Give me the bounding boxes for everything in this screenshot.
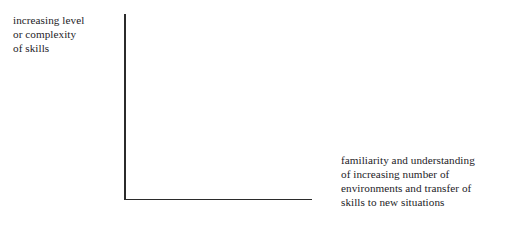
plot-area bbox=[126, 16, 311, 197]
diagram-canvas: increasing level or complexity of skills… bbox=[0, 0, 524, 229]
y-axis-label-line-1: increasing level bbox=[13, 13, 84, 27]
y-axis-label: increasing level or complexity of skills bbox=[13, 13, 84, 55]
x-axis-line bbox=[124, 199, 312, 201]
y-axis-label-line-3: of skills bbox=[13, 41, 84, 55]
x-axis-label-line-2: of increasing number of bbox=[341, 167, 475, 181]
x-axis-label-line-4: skills to new situations bbox=[341, 195, 475, 209]
x-axis-label-line-1: familiarity and understanding bbox=[341, 153, 475, 167]
x-axis-label: familiarity and understanding of increas… bbox=[341, 153, 475, 209]
y-axis-label-line-2: or complexity bbox=[13, 27, 84, 41]
x-axis-label-line-3: environments and transfer of bbox=[341, 181, 475, 195]
